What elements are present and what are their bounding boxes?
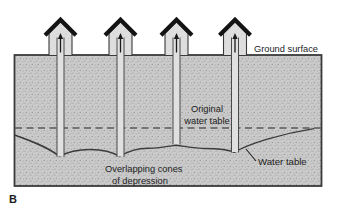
original-water-table-label-line1: Original bbox=[191, 104, 223, 114]
well-pipe bbox=[173, 38, 180, 145]
figure-groundwater-cones-of-depression: Ground surface Original water table Wate… bbox=[0, 0, 339, 207]
diagram-canvas: Ground surface Original water table Wate… bbox=[0, 0, 339, 207]
well-pipe bbox=[57, 38, 64, 157]
well-pipe bbox=[232, 38, 239, 153]
overlapping-cones-label-line1: Overlapping cones bbox=[105, 164, 183, 174]
ground-surface-label: Ground surface bbox=[254, 44, 318, 54]
original-water-table-label-line2: water table bbox=[183, 116, 229, 126]
panel-label: B bbox=[9, 193, 17, 205]
water-table-label: Water table bbox=[258, 156, 307, 167]
well-pipe bbox=[117, 38, 124, 157]
overlapping-cones-label-line2: of depression bbox=[112, 176, 168, 186]
